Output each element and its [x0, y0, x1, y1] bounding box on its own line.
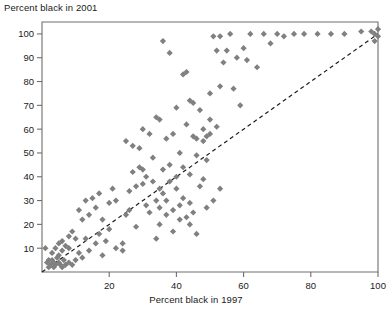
data-point [113, 197, 119, 203]
y-tick-label-70: 70 [23, 100, 34, 111]
data-point [204, 157, 210, 163]
x-tick-label-80: 80 [306, 280, 317, 291]
data-point [89, 195, 95, 201]
data-point [197, 107, 203, 113]
plot-canvas: 10203040506070809010020406080100 [0, 0, 392, 313]
data-point [341, 31, 347, 37]
data-point [136, 145, 142, 151]
x-tick-label-60: 60 [238, 280, 249, 291]
data-point [109, 186, 115, 192]
data-point [224, 47, 230, 53]
data-point [49, 250, 55, 256]
data-point [106, 226, 112, 232]
data-point [83, 236, 89, 242]
data-point [190, 209, 196, 215]
data-point [200, 176, 206, 182]
y-tick-label-40: 40 [23, 171, 34, 182]
data-point [160, 190, 166, 196]
y-tick-label-80: 80 [23, 76, 34, 87]
data-point [177, 150, 183, 156]
data-point [220, 59, 226, 65]
data-point [79, 217, 85, 223]
y-tick-label-10: 10 [23, 243, 34, 254]
y-tick-label-50: 50 [23, 147, 34, 158]
data-point [247, 31, 253, 37]
data-point [143, 202, 149, 208]
data-point [103, 238, 109, 244]
data-point [42, 245, 48, 251]
data-point [261, 31, 267, 37]
data-point [69, 228, 75, 234]
data-point [187, 171, 193, 177]
data-point [113, 245, 119, 251]
data-point [96, 190, 102, 196]
data-point [153, 197, 159, 203]
data-point [328, 31, 334, 37]
data-point [241, 45, 247, 51]
data-point [123, 138, 129, 144]
data-point [163, 212, 169, 218]
data-point [130, 143, 136, 149]
data-point [180, 195, 186, 201]
data-point [193, 152, 199, 158]
data-point [143, 174, 149, 180]
data-point [183, 121, 189, 127]
data-point [73, 236, 79, 242]
data-point [177, 202, 183, 208]
data-point [153, 236, 159, 242]
data-point [207, 90, 213, 96]
data-point [76, 207, 82, 213]
scatter-plot-figure: Percent black in 2001 102030405060708090… [0, 0, 392, 313]
data-point [170, 228, 176, 234]
data-point [76, 250, 82, 256]
data-point [59, 247, 65, 253]
data-point [210, 197, 216, 203]
data-point [200, 126, 206, 132]
x-axis-label: Percent black in 1997 [0, 294, 392, 305]
x-tick-label-20: 20 [104, 280, 115, 291]
data-point [291, 31, 297, 37]
identity-reference-line [42, 34, 378, 272]
data-point [187, 221, 193, 227]
data-point [163, 136, 169, 142]
data-point [66, 233, 72, 239]
data-points [42, 26, 381, 270]
data-point [274, 31, 280, 37]
data-point [170, 207, 176, 213]
y-tick-label-100: 100 [18, 28, 34, 39]
data-point [79, 255, 85, 261]
y-tick-label-60: 60 [23, 124, 34, 135]
y-tick-label-20: 20 [23, 219, 34, 230]
data-point [267, 40, 273, 46]
data-point [140, 126, 146, 132]
data-point [217, 186, 223, 192]
data-point [146, 209, 152, 215]
data-point [210, 33, 216, 39]
data-point [314, 31, 320, 37]
data-point [214, 124, 220, 130]
data-point [126, 188, 132, 194]
data-point [120, 240, 126, 246]
data-point [123, 212, 129, 218]
data-point [160, 38, 166, 44]
data-point [157, 205, 163, 211]
data-point [180, 164, 186, 170]
data-point [99, 252, 105, 258]
data-point [217, 33, 223, 39]
data-point [133, 183, 139, 189]
data-point [244, 57, 250, 63]
data-point [167, 162, 173, 168]
data-point [358, 28, 364, 34]
data-point [86, 212, 92, 218]
axis-lines [42, 22, 378, 272]
data-point [150, 155, 156, 161]
data-point [96, 231, 102, 237]
data-point [93, 240, 99, 246]
data-point [234, 55, 240, 61]
data-point [230, 86, 236, 92]
data-point [146, 131, 152, 137]
data-point [130, 169, 136, 175]
data-point [237, 102, 243, 108]
data-point [254, 64, 260, 70]
data-point [173, 186, 179, 192]
